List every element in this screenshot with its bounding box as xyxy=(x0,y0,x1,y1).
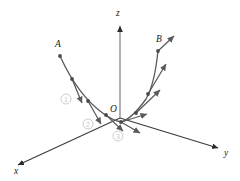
curve-dot-3 xyxy=(104,113,108,117)
curve-dot-0 xyxy=(58,54,62,58)
curve-dot-7 xyxy=(156,49,160,53)
step-annotation-label-3: 3 xyxy=(116,133,120,140)
curve-dot-1 xyxy=(70,77,74,81)
curve-dot-6 xyxy=(146,92,150,96)
curve-dot-2 xyxy=(86,99,90,103)
coordinate-diagram-svg: 123 x y z O A B xyxy=(0,0,240,181)
step-annotation-label-2: 2 xyxy=(86,121,90,128)
axis-label-x: x xyxy=(13,166,19,176)
point-label-a: A xyxy=(54,39,61,49)
axis-label-y: y xyxy=(223,148,229,158)
axis-label-z: z xyxy=(115,8,120,18)
curve-dot-4 xyxy=(119,120,123,124)
tangent-vector-right-3 xyxy=(148,64,166,94)
curve-sample-dots-group xyxy=(58,49,160,124)
axis-line-x xyxy=(18,118,120,165)
axes-group xyxy=(18,26,218,165)
tangent-vector-right-1 xyxy=(121,114,147,122)
step-annotation-label-1: 1 xyxy=(64,96,68,103)
origin-label: O xyxy=(110,104,117,114)
point-label-b: B xyxy=(156,34,162,44)
step-annotations-group: 123 xyxy=(61,94,123,141)
axis-line-y xyxy=(120,118,218,148)
figure-container: 123 x y z O A B xyxy=(0,0,240,181)
curve-dot-5 xyxy=(134,111,138,115)
